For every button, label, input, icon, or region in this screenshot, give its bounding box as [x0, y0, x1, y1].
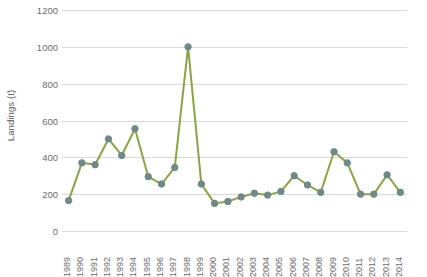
y-axis-tick-labels: 020040060080010001200: [12, 0, 58, 277]
data-point-marker: [225, 198, 231, 204]
data-point-marker: [291, 173, 297, 179]
landings-line-chart: Landings (t) 020040060080010001200 19891…: [0, 0, 427, 277]
x-axis-tick-label: 1992: [102, 257, 112, 277]
x-axis-tick-label: 2002: [235, 257, 245, 277]
x-axis-tick-label: 2001: [221, 257, 231, 277]
x-axis-tick-label: 2007: [301, 257, 311, 277]
x-axis-tick-label: 1997: [168, 257, 178, 277]
data-point-marker: [79, 160, 85, 166]
x-axis-tick-label: 1989: [62, 257, 72, 277]
x-axis-tick-label: 1993: [115, 257, 125, 277]
data-point-marker: [145, 173, 151, 179]
x-axis-tick-label: 1999: [195, 257, 205, 277]
x-axis-tick-label: 2013: [381, 257, 391, 277]
data-point-marker: [198, 181, 204, 187]
data-point-marker: [238, 194, 244, 200]
data-point-marker: [264, 192, 270, 198]
gridline: [62, 231, 407, 232]
data-point-marker: [172, 164, 178, 170]
x-axis-tick-label: 2010: [341, 257, 351, 277]
y-axis-tick-label: 400: [12, 152, 58, 163]
data-point-marker: [251, 190, 257, 196]
data-point-marker: [397, 189, 403, 195]
data-point-marker: [384, 172, 390, 178]
data-point-marker: [278, 188, 284, 194]
x-axis-tick-labels: 1989199019911992199319941995199619971998…: [62, 233, 407, 277]
x-axis-tick-label: 2012: [367, 257, 377, 277]
y-axis-tick-label: 1000: [12, 41, 58, 52]
data-point-marker: [92, 162, 98, 168]
data-point-marker: [211, 200, 217, 206]
data-series-landings: [62, 10, 407, 231]
data-point-marker: [357, 191, 363, 197]
x-axis-tick-label: 2005: [274, 257, 284, 277]
x-axis-tick-label: 1998: [182, 257, 192, 277]
data-point-marker: [304, 182, 310, 188]
data-point-marker: [331, 149, 337, 155]
x-axis-tick-label: 2006: [288, 257, 298, 277]
data-point-marker: [185, 44, 191, 50]
y-axis-tick-label: 0: [12, 226, 58, 237]
x-axis-tick-label: 2011: [354, 258, 364, 277]
plot-area: [62, 10, 407, 231]
y-axis-tick-label: 800: [12, 78, 58, 89]
y-axis-tick-label: 600: [12, 115, 58, 126]
x-axis-tick-label: 1996: [155, 257, 165, 277]
series-line: [69, 47, 401, 204]
x-axis-tick-label: 2008: [314, 257, 324, 277]
x-axis-tick-label: 2014: [394, 257, 404, 277]
x-axis-tick-label: 2000: [208, 257, 218, 277]
x-axis-tick-label: 1995: [142, 257, 152, 277]
x-axis-tick-label: 1994: [128, 257, 138, 277]
x-axis-tick-label: 1991: [89, 257, 99, 277]
x-axis-tick-label: 2009: [328, 257, 338, 277]
data-point-marker: [318, 189, 324, 195]
x-axis-tick-label: 2004: [261, 257, 271, 277]
x-axis-tick-label: 2003: [248, 257, 258, 277]
data-point-marker: [105, 136, 111, 142]
data-point-marker: [344, 160, 350, 166]
data-point-marker: [119, 152, 125, 158]
y-axis-tick-label: 1200: [12, 5, 58, 16]
data-point-marker: [65, 197, 71, 203]
x-axis-tick-label: 1990: [75, 257, 85, 277]
data-point-marker: [132, 126, 138, 132]
data-point-marker: [371, 191, 377, 197]
data-point-marker: [158, 181, 164, 187]
y-axis-tick-label: 200: [12, 189, 58, 200]
